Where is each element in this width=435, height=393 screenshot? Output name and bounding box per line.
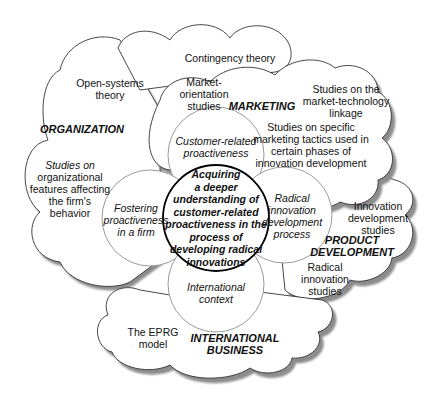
marketing-tactics-label: Studies on specific marketing tactics us… [253, 121, 369, 169]
petal-top-label: Customer-related proactiveness [176, 135, 257, 159]
market-orientation-label: Market- orientation studies [179, 76, 228, 112]
international-business-title: INTERNATIONAL BUSINESS [190, 332, 279, 356]
market-technology-linkage-label: Studies on the market-technology linkage [303, 83, 389, 119]
petal-left-label: Fostering proactiveness in a firm [104, 202, 169, 238]
organization-title: ORGANIZATION [40, 123, 124, 135]
open-systems-theory-label: Open-systems theory [76, 77, 144, 101]
radical-innovation-studies-label: Radical innovation studies [301, 261, 349, 297]
eprg-model-label: The EPRG model [128, 326, 179, 350]
organizational-features-label: Studies on organizational features affec… [30, 159, 110, 219]
product-development-title: PRODUCT DEVELOPMENT [310, 234, 394, 258]
central-goal-label: Acquiring a deeper understanding of cust… [165, 168, 267, 268]
petal-bottom-label: International context [187, 281, 245, 305]
petal-right-label: Radical innovation development process [262, 192, 322, 240]
contingency-theory-label: Contingency theory [185, 52, 275, 64]
marketing-title: MARKETING [229, 100, 296, 112]
innovation-development-studies-label: Innovation development studies [348, 200, 408, 236]
